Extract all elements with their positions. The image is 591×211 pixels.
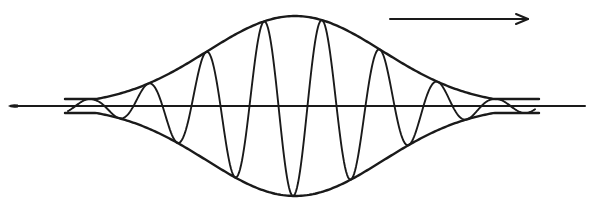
diagram-canvas xyxy=(0,0,591,211)
wave-packet-diagram xyxy=(0,0,591,211)
carrier-wave xyxy=(68,20,535,196)
envelope-upper-curve xyxy=(65,16,539,99)
direction-arrow xyxy=(390,14,528,24)
axis-left-tip xyxy=(8,104,18,108)
